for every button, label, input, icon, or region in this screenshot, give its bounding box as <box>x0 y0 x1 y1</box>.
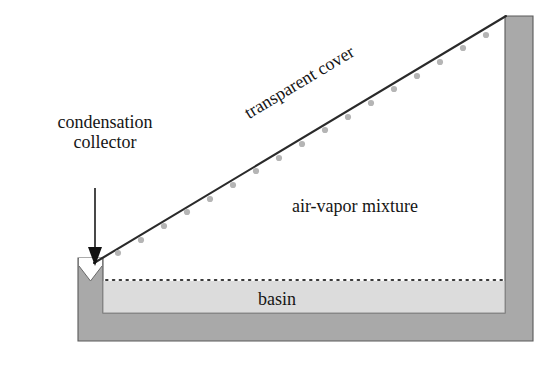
water-droplet-icon <box>207 196 213 202</box>
water-droplet-icon <box>138 237 144 243</box>
water-droplet-icon <box>253 168 259 174</box>
condensation-collector-label-line1: condensation <box>20 112 190 132</box>
air-vapor-mixture-label: air-vapor mixture <box>292 196 418 216</box>
condensation-collector-label: condensation collector <box>20 112 190 152</box>
water-droplet-icon <box>276 155 282 161</box>
water-droplet-icon <box>184 209 190 215</box>
water-droplet-icon <box>414 73 420 79</box>
water-droplet-icon <box>161 223 167 229</box>
water-droplet-icon <box>391 86 397 92</box>
solar-still-diagram: condensation collector transparent cover… <box>0 0 556 365</box>
water-droplet-icon <box>460 45 466 51</box>
water-droplet-icon <box>483 32 489 38</box>
diagram-canvas <box>0 0 556 365</box>
water-droplet-icon <box>368 100 374 106</box>
water-droplet-icon <box>345 114 351 120</box>
basin-label: basin <box>258 289 296 309</box>
water-droplet-icon <box>322 127 328 133</box>
condensation-collector-label-line2: collector <box>20 132 190 152</box>
water-droplet-icon <box>230 182 236 188</box>
arrow-down-icon <box>88 188 102 266</box>
water-droplet-icon <box>437 59 443 65</box>
water-droplet-icon <box>115 250 121 256</box>
water-droplet-icon <box>299 141 305 147</box>
basin-water-fill <box>103 281 505 313</box>
